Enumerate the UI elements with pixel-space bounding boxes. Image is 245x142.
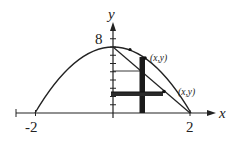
point-upper bbox=[143, 56, 147, 60]
point-upper-label: (x,y) bbox=[150, 53, 167, 64]
y-tick-label-8: 8 bbox=[95, 31, 103, 47]
vertical-strip bbox=[140, 57, 146, 113]
point-lower-label: (x,y) bbox=[178, 87, 195, 98]
y-axis-label: y bbox=[106, 6, 115, 22]
y-axis bbox=[110, 22, 116, 118]
x-tick-label-neg2: -2 bbox=[25, 119, 38, 135]
x-axis-label: x bbox=[218, 105, 226, 121]
point-lower bbox=[162, 90, 166, 94]
x-tick-label-2: 2 bbox=[186, 119, 194, 135]
y-axis-arrow-icon bbox=[110, 22, 116, 31]
point-near-vertex bbox=[128, 48, 131, 51]
x-axis-arrow-icon bbox=[207, 110, 216, 116]
diagram-figure: y x 8 -2 2 (x,y) (x,y) bbox=[0, 0, 245, 142]
